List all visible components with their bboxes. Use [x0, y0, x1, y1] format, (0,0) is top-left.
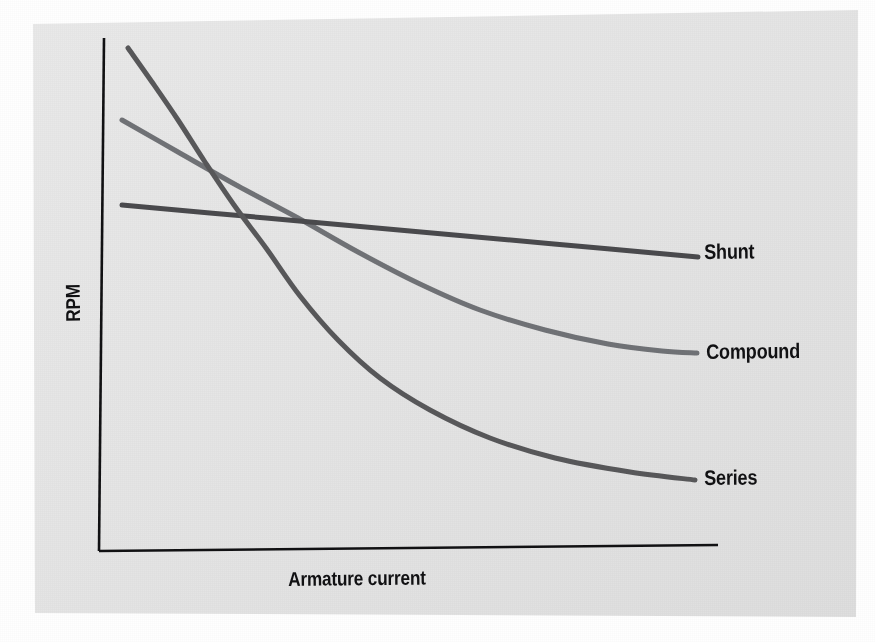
chart-plot-area [0, 0, 875, 642]
y-axis-line [99, 38, 104, 551]
curve-compound [122, 120, 697, 353]
series-label-shunt: Shunt [704, 239, 754, 264]
curve-series [128, 48, 695, 480]
figure-root: RPM Armature current Shunt Compound Seri… [0, 0, 875, 642]
y-axis-label: RPM [62, 284, 85, 322]
x-axis-label: Armature current [288, 566, 426, 591]
series-label-compound: Compound [706, 339, 800, 364]
curve-shunt [122, 205, 698, 257]
series-label-series: Series [704, 465, 757, 490]
x-axis-line [99, 545, 718, 551]
